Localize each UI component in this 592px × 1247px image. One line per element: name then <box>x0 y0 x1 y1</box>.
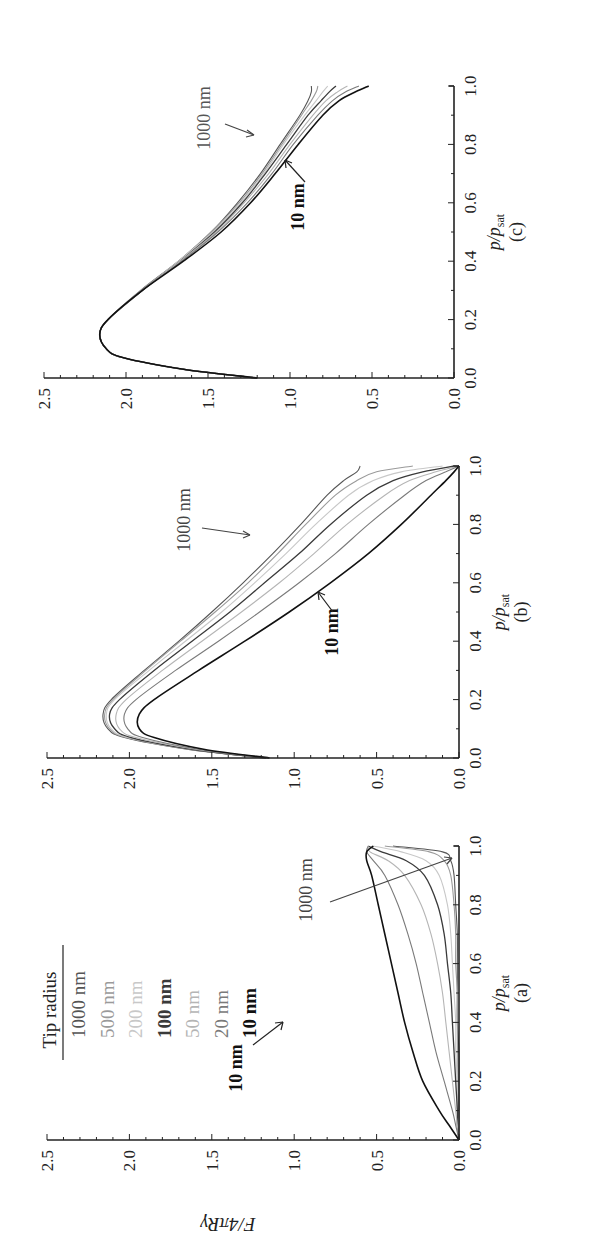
p-tick-label: 0.4 <box>461 250 480 272</box>
p-tick-label: 0.2 <box>461 309 480 330</box>
curve-50nm <box>368 846 459 1140</box>
f-tick-label: 2.0 <box>117 388 136 409</box>
f-tick-label: 2.0 <box>120 768 139 789</box>
curve-200nm <box>106 466 442 758</box>
f-tick-label: 2.5 <box>38 768 57 789</box>
f-tick-label: 0.5 <box>368 1150 387 1171</box>
curve-10nm <box>366 846 459 1140</box>
legend-entry: 50 nm <box>182 990 203 1038</box>
f-tick-label: 2.0 <box>120 1150 139 1171</box>
legend-title-text: Tip radius <box>39 972 60 1049</box>
p-axis-label: p/psat <box>484 213 507 252</box>
f-tick-label: 1.0 <box>281 388 300 409</box>
p-axis-label: p/psat <box>489 974 512 1013</box>
annotation-10nm: 10 nm <box>322 608 342 656</box>
curve-10nm <box>100 86 369 378</box>
f-tick-label: 0.5 <box>368 768 387 789</box>
p-tick-label: 1.0 <box>466 835 485 856</box>
p-tick-label: 0.0 <box>461 367 480 388</box>
legend-entry: 20 nm <box>211 990 232 1038</box>
curve-1000nm <box>393 846 459 1140</box>
annotation-1000nm: 1000 nm <box>194 86 214 150</box>
annotation-10nm: 10 nm <box>226 1044 246 1092</box>
curve-20nm <box>367 846 459 1140</box>
panel-label: (c) <box>506 222 527 242</box>
curve-200nm <box>373 846 459 1140</box>
panel-b: 0.00.51.01.52.02.50.00.20.40.60.81.0p/ps… <box>38 455 532 789</box>
p-tick-label: 0.8 <box>466 894 485 915</box>
legend: Tip radius1000 nm500 nm200 nm100 nm50 nm… <box>39 945 260 1060</box>
p-tick-label: 1.0 <box>461 75 480 96</box>
p-tick-label: 0.4 <box>466 1011 485 1033</box>
f-tick-label: 1.5 <box>203 768 222 789</box>
annotation-10nm: 10 nm <box>288 183 308 231</box>
f-tick-label: 0.0 <box>450 1150 469 1171</box>
p-tick-label: 0.2 <box>466 689 485 710</box>
panel-label: (b) <box>511 602 532 623</box>
f-tick-label: 0.0 <box>445 388 464 409</box>
p-tick-label: 1.0 <box>466 455 485 476</box>
annotation-1000nm: 1000 nm <box>174 488 194 552</box>
figure-canvas: 0.00.51.01.52.02.50.00.20.40.60.81.0p/ps… <box>0 0 592 1247</box>
y-axis-label: F/4πRγ <box>200 1214 257 1235</box>
f-tick-label: 2.5 <box>38 1150 57 1171</box>
p-tick-label: 0.2 <box>466 1071 485 1092</box>
legend-entry: 1000 nm <box>68 971 89 1038</box>
p-tick-label: 0.8 <box>461 134 480 155</box>
p-axis-label: p/psat <box>489 593 512 632</box>
p-tick-label: 0.8 <box>466 514 485 535</box>
f-tick-label: 1.5 <box>199 388 218 409</box>
legend-entry: 200 nm <box>125 980 146 1038</box>
panel-label: (a) <box>511 983 532 1003</box>
legend-entry: 500 nm <box>97 980 118 1038</box>
p-tick-label: 0.6 <box>466 953 485 974</box>
curve-20nm <box>100 86 359 378</box>
f-tick-label: 1.0 <box>285 768 304 789</box>
annotation-1000nm: 1000 nm <box>296 858 316 922</box>
curve-100nm <box>109 466 454 758</box>
legend-entry: 100 nm <box>154 978 175 1038</box>
p-tick-label: 0.0 <box>466 1129 485 1150</box>
p-tick-label: 0.4 <box>466 630 485 652</box>
curve-50nm <box>116 466 459 758</box>
f-tick-label: 2.5 <box>35 388 54 409</box>
legend-entry: 10 nm <box>239 988 260 1038</box>
p-tick-label: 0.0 <box>466 747 485 768</box>
f-tick-label: 1.0 <box>285 1150 304 1171</box>
p-tick-label: 0.6 <box>461 192 480 213</box>
f-tick-label: 0.5 <box>363 388 382 409</box>
f-tick-label: 1.5 <box>203 1150 222 1171</box>
panel-c: 0.00.51.01.52.02.50.00.20.40.60.81.0p/ps… <box>35 75 527 409</box>
p-tick-label: 0.6 <box>466 572 485 593</box>
f-axis-title: F/4πRγ <box>200 1214 257 1235</box>
f-tick-label: 0.0 <box>450 768 469 789</box>
